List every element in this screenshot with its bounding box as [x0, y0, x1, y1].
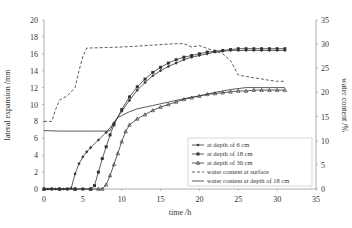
square-marker — [136, 85, 139, 88]
square-marker — [128, 95, 131, 98]
square-marker — [93, 184, 96, 187]
square-marker — [268, 47, 271, 50]
legend-label: at depth of 18 cm — [207, 150, 253, 157]
diamond-marker — [167, 65, 170, 68]
diamond-marker — [175, 61, 178, 64]
square-marker — [276, 47, 279, 50]
y-tick-label: 8 — [34, 117, 38, 126]
series-5 — [44, 88, 285, 132]
y-tick-label: 4 — [34, 151, 38, 160]
y-tick-label: 10 — [30, 101, 38, 110]
y-tick-label: 20 — [30, 16, 38, 25]
triangle-marker — [283, 88, 286, 91]
y-tick-label: 18 — [30, 33, 38, 42]
x-tick-label: 25 — [234, 195, 242, 204]
x-tick-label: 0 — [42, 195, 46, 204]
square-marker — [283, 47, 286, 50]
square-marker — [182, 56, 185, 59]
chart: 0246810121416182005101520253035051015202… — [0, 0, 352, 228]
square-marker — [109, 133, 112, 136]
square-marker — [101, 157, 104, 160]
x-tick-label: 15 — [157, 195, 165, 204]
x-axis-label: time /h — [169, 208, 191, 217]
legend-label: water content at depth of 18 cm — [207, 177, 289, 184]
y-tick-label: 6 — [34, 134, 38, 143]
y-tick-label: 12 — [30, 84, 38, 93]
y2-tick-label: 25 — [321, 64, 329, 73]
square-marker — [175, 58, 178, 61]
square-marker — [221, 49, 224, 52]
series-4 — [44, 44, 285, 122]
square-marker — [245, 47, 248, 50]
legend-label: at depth of 6 cm — [207, 141, 249, 148]
square-marker — [190, 54, 193, 57]
square-marker — [151, 71, 154, 74]
y2-tick-label: 35 — [321, 16, 329, 25]
y2-tick-label: 30 — [321, 40, 329, 49]
x-tick-label: 30 — [273, 195, 281, 204]
y-tick-label: 16 — [30, 50, 38, 59]
square-marker — [229, 48, 232, 51]
series-line — [44, 88, 285, 132]
square-marker — [206, 51, 209, 54]
square-marker — [167, 62, 170, 65]
legend-label: water content at surface — [207, 168, 269, 175]
square-marker — [144, 78, 147, 81]
x-tick-label: 10 — [118, 195, 126, 204]
square-marker — [120, 108, 123, 111]
square-marker — [97, 171, 100, 174]
y-tick-label: 2 — [34, 168, 38, 177]
y2-tick-label: 10 — [321, 137, 329, 146]
square-marker — [237, 47, 240, 50]
square-marker — [260, 47, 263, 50]
x-tick-label: 5 — [81, 195, 85, 204]
x-tick-label: 20 — [195, 195, 203, 204]
x-tick-label: 35 — [312, 195, 320, 204]
square-marker — [252, 47, 255, 50]
y2-tick-label: 0 — [321, 185, 325, 194]
square-marker — [105, 145, 108, 148]
legend: at depth of 6 cmat depth of 18 cmat dept… — [188, 138, 312, 186]
square-marker — [198, 52, 201, 55]
y-tick-label: 0 — [34, 185, 38, 194]
y-tick-label: 14 — [30, 67, 38, 76]
square-marker — [197, 153, 200, 156]
y2-axis-label: water content /% — [340, 78, 349, 133]
series-line — [44, 44, 285, 122]
legend-label: at depth of 30 cm — [207, 159, 253, 166]
y-axis-label: lateral expansion /mm — [3, 69, 12, 141]
diamond-marker — [73, 172, 76, 175]
square-marker — [159, 66, 162, 69]
y2-tick-label: 15 — [321, 113, 329, 122]
y2-tick-label: 20 — [321, 88, 329, 97]
y2-tick-label: 5 — [321, 161, 325, 170]
